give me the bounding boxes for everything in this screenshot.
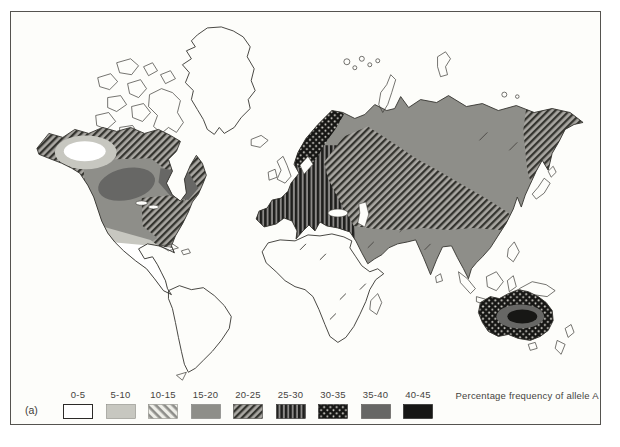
legend-swatch xyxy=(276,404,306,419)
world-map xyxy=(11,12,600,424)
legend-label: 15-20 xyxy=(193,389,218,402)
north-america-overlays xyxy=(55,135,199,301)
region-mexico xyxy=(85,240,177,302)
legend-label: 25-30 xyxy=(278,389,303,402)
region-novaya-zemlya xyxy=(379,75,396,113)
region-sri-lanka xyxy=(436,274,443,283)
region-iceland xyxy=(251,135,268,147)
legend-label: 5-10 xyxy=(111,389,131,402)
great-lakes xyxy=(149,205,159,209)
legend-swatch xyxy=(361,404,391,419)
legend-swatch xyxy=(63,404,93,419)
black-sea xyxy=(328,209,348,217)
great-lakes xyxy=(136,201,148,205)
legend-label: 10-15 xyxy=(150,389,175,402)
legend-label: 0-5 xyxy=(71,389,85,402)
legend-item: 5-10 xyxy=(106,389,136,419)
legend-swatch xyxy=(106,404,136,419)
legend-label: 20-25 xyxy=(235,389,260,402)
legend-label: 30-35 xyxy=(320,389,345,402)
region-greenland xyxy=(182,27,255,134)
map-legend: 0-5 5-10 10-15 15-20 20-25 25-30 xyxy=(63,389,599,419)
region-ireland xyxy=(268,169,277,180)
legend-item: 30-35 xyxy=(318,389,348,419)
region-tasmania xyxy=(528,342,537,350)
legend-swatch xyxy=(318,404,348,419)
legend-item: 10-15 xyxy=(148,389,178,419)
region-severnaya-zemlya xyxy=(438,52,451,77)
legend-item: 35-40 xyxy=(361,389,391,419)
legend-item: 20-25 xyxy=(233,389,263,419)
legend-swatch xyxy=(191,404,221,419)
region-nw-canada-low xyxy=(64,141,106,161)
region-madagascar xyxy=(370,294,382,315)
legend-label: 35-40 xyxy=(363,389,388,402)
legend-item: 40-45 xyxy=(403,389,433,419)
region-australia-center xyxy=(507,310,537,324)
region-great-britain xyxy=(277,156,291,183)
region-new-zealand xyxy=(555,324,574,354)
legend-swatch xyxy=(233,404,263,419)
legend-item: 25-30 xyxy=(276,389,306,419)
legend-item: 0-5 xyxy=(63,389,93,419)
region-south-america xyxy=(168,286,231,373)
legend-swatch xyxy=(148,404,178,419)
region-tierra-del-fuego xyxy=(176,372,186,380)
figure-caption: (a) xyxy=(25,404,38,416)
legend-swatch xyxy=(403,404,433,419)
legend-title: Percentage frequency of allele A xyxy=(456,389,599,402)
figure-page: (a) 0-5 5-10 10-15 15-20 20-25 xyxy=(0,0,620,447)
figure-frame: (a) 0-5 5-10 10-15 15-20 20-25 xyxy=(10,11,601,425)
legend-item: 15-20 xyxy=(191,389,221,419)
region-hispaniola xyxy=(181,249,190,255)
legend-label: 40-45 xyxy=(405,389,430,402)
region-philippines xyxy=(507,242,519,262)
australia-overlays xyxy=(496,305,544,329)
